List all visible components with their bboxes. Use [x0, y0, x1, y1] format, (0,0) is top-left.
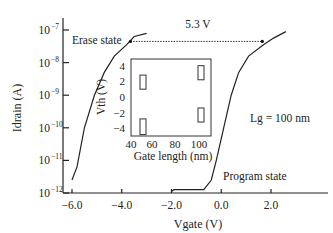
- x-axis-label: Vgate (V): [174, 217, 222, 231]
- inset-y-tick-label: 2: [120, 75, 126, 87]
- inset-y-label: Vth (V): [95, 79, 108, 115]
- inset-y-tick-label: 0: [120, 91, 126, 103]
- x-tick-label: 0.0: [214, 199, 229, 211]
- program-state-label: Program state: [223, 170, 287, 183]
- inset-plot: 420−2−4 406080100 Gate length (nm) Vth (…: [95, 59, 212, 163]
- inset-y-tick-label: −2: [113, 107, 125, 119]
- inset-x-label: Gate length (nm): [134, 150, 213, 163]
- y-tick-label: 10: [39, 89, 51, 101]
- x-tick-label: −4.0: [111, 199, 132, 211]
- y-tick-label: 10: [39, 24, 51, 36]
- y-tick-exponent: −11: [51, 152, 63, 161]
- inset-x-tick-label: 100: [191, 138, 208, 150]
- y-tick-exponent: −8: [51, 55, 59, 64]
- y-tick-exponent: −9: [51, 87, 59, 96]
- vth-box: [198, 108, 204, 122]
- y-axis-label: Idrain (A): [10, 84, 24, 132]
- gate-length-label: Lg = 100 nm: [250, 112, 310, 125]
- arrow-dot-right: [261, 40, 264, 43]
- y-tick-exponent: −12: [51, 185, 63, 194]
- inset-x-tick-label: 60: [147, 138, 159, 150]
- x-tick-label: 2.0: [264, 199, 279, 211]
- memory-window-label: 5.3 V: [185, 18, 211, 30]
- x-tick-label: −2.0: [161, 199, 182, 211]
- erase-state-label: Erase state: [72, 34, 122, 46]
- inset-x-tick-label: 40: [126, 138, 138, 150]
- y-tick-exponent: −7: [51, 22, 59, 31]
- inset-x-ticks: 406080100: [126, 138, 208, 150]
- vth-box: [198, 66, 204, 80]
- vth-box: [140, 75, 146, 89]
- y-tick-exponent: −10: [51, 120, 63, 129]
- vth-box: [140, 119, 146, 135]
- chart: −6.0−4.0−2.00.02.0 10−710−810−910−1010−1…: [0, 0, 333, 233]
- inset-y-ticks: 420−2−4: [113, 60, 125, 135]
- y-tick-label: 10: [39, 187, 51, 199]
- inset-x-tick-label: 80: [170, 138, 182, 150]
- x-ticks: −6.0−4.0−2.00.02.0: [62, 189, 279, 211]
- arrow-dot-left: [129, 40, 132, 43]
- y-tick-label: 10: [39, 122, 51, 134]
- x-tick-label: −6.0: [62, 199, 83, 211]
- y-tick-label: 10: [39, 154, 51, 166]
- inset-y-tick-label: 4: [120, 60, 126, 72]
- y-tick-label: 10: [39, 57, 51, 69]
- inset-y-tick-label: −4: [113, 122, 125, 134]
- y-ticks: 10−710−810−910−1010−1110−12: [39, 22, 70, 199]
